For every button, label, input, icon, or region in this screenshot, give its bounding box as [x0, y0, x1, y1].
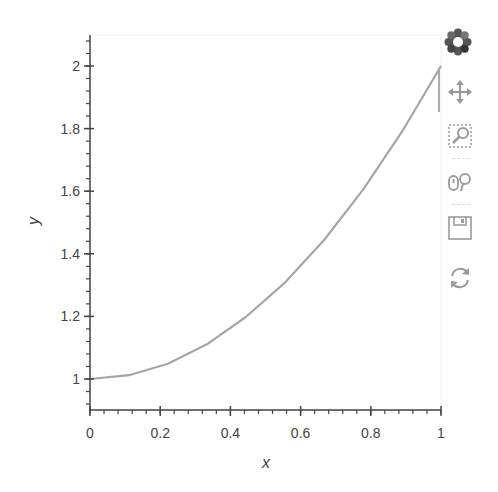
bokeh-logo-icon[interactable] — [444, 28, 472, 56]
x-tick-label: 0 — [86, 425, 94, 441]
y-tick-label: 2 — [72, 58, 80, 74]
active-tool-indicator — [438, 68, 440, 112]
chart: 11.21.41.61.82 00.20.40.60.81 x y — [0, 0, 498, 492]
pan-icon — [446, 78, 474, 106]
x-tick-label: 1 — [437, 425, 445, 441]
reset-icon — [446, 264, 474, 292]
save-tool-button[interactable] — [446, 214, 474, 242]
y-tick-label: 1.8 — [61, 121, 81, 137]
y-axis: 11.21.41.61.82 — [61, 35, 94, 411]
toolbar — [442, 26, 478, 296]
save-icon — [446, 214, 474, 242]
plot-frame[interactable] — [90, 35, 441, 410]
toolbar-separator — [452, 158, 470, 159]
x-tick-label: 0.4 — [221, 425, 241, 441]
x-tick-label: 0.6 — [291, 425, 311, 441]
wheel-zoom-icon — [446, 168, 474, 196]
y-axis-label: y — [25, 216, 42, 226]
reset-tool-button[interactable] — [446, 264, 474, 292]
wheel-zoom-tool-button[interactable] — [446, 168, 474, 196]
box-zoom-icon — [446, 122, 474, 150]
pan-tool-button[interactable] — [446, 78, 474, 106]
y-tick-label: 1.6 — [61, 183, 81, 199]
y-tick-label: 1.4 — [61, 246, 81, 262]
y-tick-label: 1 — [72, 371, 80, 387]
x-tick-label: 0.2 — [150, 425, 170, 441]
x-tick-label: 0.8 — [361, 425, 381, 441]
x-axis-label: x — [261, 454, 271, 471]
x-axis: 00.20.40.60.81 — [86, 406, 445, 441]
toolbar-separator — [452, 204, 470, 205]
box-zoom-tool-button[interactable] — [446, 122, 474, 150]
y-tick-label: 1.2 — [61, 308, 81, 324]
